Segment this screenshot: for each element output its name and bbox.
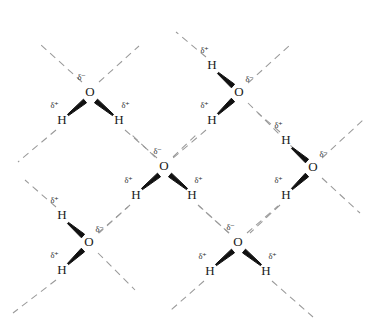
hydrogen-atom-label: H (205, 263, 214, 278)
oxygen-atom-label: O (233, 234, 242, 249)
oxygen-atom-label: O (308, 159, 317, 174)
hydrogen-bond-dashed-line (272, 281, 313, 317)
hydrogen-bond-dashed-line (41, 45, 82, 82)
hydrogen-atom-label: H (57, 262, 66, 277)
covalent-bond-wedge (215, 249, 234, 265)
covalent-bond-wedge (168, 173, 187, 189)
hydrogen-partial-positive-charge-label: δ⁺ (50, 250, 59, 260)
hydrogen-bond-dashed-line (13, 280, 56, 313)
hydrogen-atom-label: H (281, 187, 290, 202)
hydrogen-partial-positive-charge-label: δ⁺ (200, 100, 209, 110)
molecule-bottom-left: Oδ⁻Hδ⁺Hδ⁺ (50, 195, 104, 277)
hydrogen-partial-positive-charge-label: δ⁺ (268, 251, 277, 261)
hydrogen-partial-positive-charge-label: δ⁺ (274, 120, 283, 130)
hydrogen-bond-dashed-line (199, 206, 229, 233)
hydrogen-bond-dashed-line (173, 130, 206, 158)
covalent-bond-wedge (67, 222, 84, 237)
covalent-bond-wedge (67, 248, 84, 264)
hydrogen-bond-dashed-line (247, 206, 278, 233)
hydrogen-atom-label: H (57, 207, 66, 222)
hydrogen-bonding-diagram: Oδ⁻Hδ⁺Hδ⁺Oδ⁻Hδ⁺Hδ⁺Oδ⁻Hδ⁺Hδ⁺Oδ⁻Hδ⁺Hδ⁺Oδ⁻H… (0, 0, 372, 332)
hydrogen-bond-dashed-line (98, 253, 135, 290)
covalent-bond-wedge (242, 249, 261, 265)
hydrogen-bond-dashed-line (18, 130, 56, 162)
hydrogen-atom-label: H (131, 187, 140, 202)
hydrogen-partial-positive-charge-label: δ⁺ (50, 195, 59, 205)
covalent-bond-wedge (217, 72, 234, 87)
covalent-bond-wedge (94, 99, 113, 115)
covalent-bond-wedge (291, 147, 308, 162)
hydrogen-atom-label: H (207, 57, 216, 72)
oxygen-partial-negative-charge-label: δ⁻ (77, 72, 86, 82)
oxygen-partial-negative-charge-label: δ⁻ (95, 224, 104, 234)
molecule-network-canvas: Oδ⁻Hδ⁺Hδ⁺Oδ⁻Hδ⁺Hδ⁺Oδ⁻Hδ⁺Hδ⁺Oδ⁻Hδ⁺Hδ⁺Oδ⁻H… (0, 0, 372, 332)
hydrogen-atom-label: H (207, 112, 216, 127)
hydrogen-atom-label: H (187, 187, 196, 202)
hydrogen-atom-label: H (57, 112, 66, 127)
hydrogen-partial-positive-charge-label: δ⁺ (124, 175, 133, 185)
hydrogen-bond-dashed-line (99, 46, 139, 82)
hydrogen-partial-positive-charge-label: δ⁺ (50, 100, 59, 110)
oxygen-partial-negative-charge-label: δ⁻ (319, 149, 328, 159)
molecule-top-right: Oδ⁻Hδ⁺Hδ⁺ (200, 45, 254, 127)
covalent-bond-wedge (141, 173, 160, 189)
hydrogen-bond-dashed-line (173, 133, 198, 157)
atom-layer: Oδ⁻Hδ⁺Hδ⁺Oδ⁻Hδ⁺Hδ⁺Oδ⁻Hδ⁺Hδ⁺Oδ⁻Hδ⁺Hδ⁺Oδ⁻H… (50, 45, 328, 278)
oxygen-partial-negative-charge-label: δ⁻ (226, 222, 235, 232)
oxygen-atom-label: O (85, 84, 94, 99)
covalent-bond-wedge (217, 98, 234, 114)
covalent-bond-layer (67, 72, 308, 265)
hydrogen-bond-dashed-line (171, 281, 204, 310)
oxygen-atom-label: O (234, 84, 243, 99)
oxygen-atom-label: O (84, 234, 93, 249)
molecule-top-left: Oδ⁻Hδ⁺Hδ⁺ (50, 72, 130, 127)
molecule-right: Oδ⁻Hδ⁺Hδ⁺ (274, 120, 328, 202)
covalent-bond-wedge (67, 99, 86, 115)
hydrogen-partial-positive-charge-label: δ⁺ (194, 175, 203, 185)
molecule-bottom-right: Oδ⁻Hδ⁺Hδ⁺ (198, 222, 277, 278)
hydrogen-partial-positive-charge-label: δ⁺ (200, 45, 209, 55)
covalent-bond-wedge (291, 173, 308, 189)
oxygen-atom-label: O (159, 158, 168, 173)
hydrogen-atom-label: H (261, 263, 270, 278)
hydrogen-partial-positive-charge-label: δ⁺ (121, 100, 130, 110)
hydrogen-atom-label: H (281, 132, 290, 147)
hydrogen-bond-dashed-line (322, 178, 360, 213)
molecule-center: Oδ⁻Hδ⁺Hδ⁺ (124, 146, 203, 202)
hydrogen-bond-dashed-line (250, 205, 280, 233)
hydrogen-partial-positive-charge-label: δ⁺ (198, 251, 207, 261)
oxygen-partial-negative-charge-label: δ⁻ (245, 74, 254, 84)
hydrogen-atom-label: H (114, 112, 123, 127)
hydrogen-partial-positive-charge-label: δ⁺ (274, 175, 283, 185)
oxygen-partial-negative-charge-label: δ⁻ (153, 146, 162, 156)
hydrogen-bond-dashed-line (131, 134, 155, 157)
